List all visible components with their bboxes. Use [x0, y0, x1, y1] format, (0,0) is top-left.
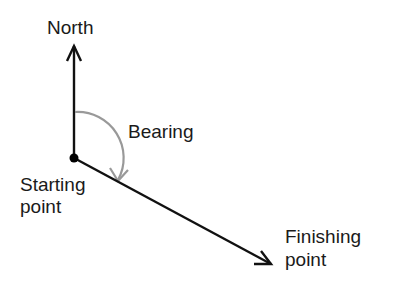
- diagram-graphics: [0, 0, 399, 295]
- bearing-label: Bearing: [128, 121, 194, 142]
- starting-point-label-line1: Starting: [20, 174, 85, 195]
- bearing-diagram: North Bearing Starting point Finishing p…: [0, 0, 399, 295]
- north-label: North: [47, 17, 93, 38]
- finishing-point-label-line1: Finishing: [285, 226, 361, 247]
- starting-point-label-line2: point: [20, 196, 61, 217]
- starting-point-dot: [70, 154, 79, 163]
- bearing-arc-icon: [75, 112, 128, 181]
- finishing-point-label-line2: point: [285, 249, 326, 270]
- north-arrow-icon: [67, 46, 81, 158]
- finish-arrow-icon: [74, 158, 271, 264]
